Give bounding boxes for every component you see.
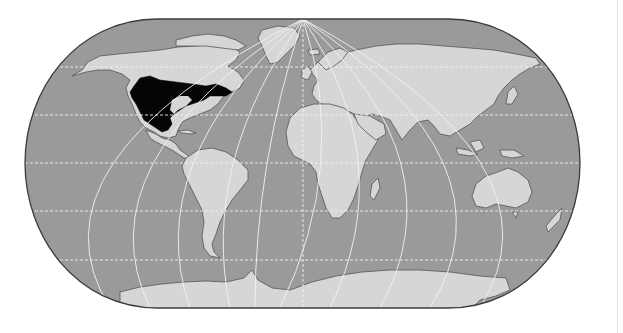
world-map xyxy=(0,0,623,333)
iceland xyxy=(308,49,320,55)
